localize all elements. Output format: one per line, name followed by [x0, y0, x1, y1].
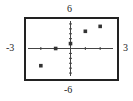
data-point: [69, 42, 73, 46]
data-point: [98, 25, 102, 29]
scatter-plot: [0, 0, 133, 101]
data-point: [84, 29, 88, 33]
data-point: [39, 64, 43, 68]
data-point: [54, 47, 58, 51]
